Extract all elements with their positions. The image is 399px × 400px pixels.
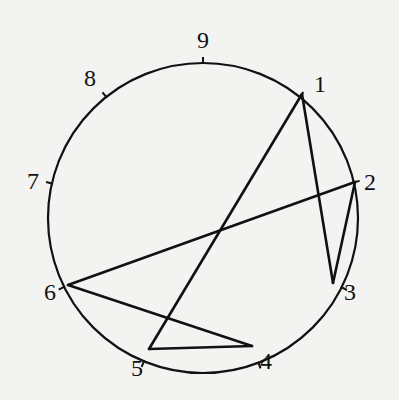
diagram-stage: 123456789 (0, 0, 399, 400)
point-label-1: 1 (314, 72, 326, 96)
point-label-4: 4 (260, 349, 272, 373)
circle-chord-diagram (0, 0, 399, 400)
point-label-7: 7 (27, 169, 39, 193)
point-label-5: 5 (131, 356, 143, 380)
chord-1-5 (149, 94, 302, 349)
circle (48, 63, 358, 373)
point-label-6: 6 (44, 280, 56, 304)
chord-5-4 (149, 346, 252, 349)
chord-6-4 (68, 285, 252, 346)
chord-2-6 (68, 182, 355, 285)
point-label-9: 9 (197, 28, 209, 52)
point-label-2: 2 (364, 170, 376, 194)
chord-2-3 (333, 182, 355, 283)
point-label-3: 3 (344, 280, 356, 304)
point-label-8: 8 (84, 66, 96, 90)
chord-1-3 (302, 94, 333, 283)
